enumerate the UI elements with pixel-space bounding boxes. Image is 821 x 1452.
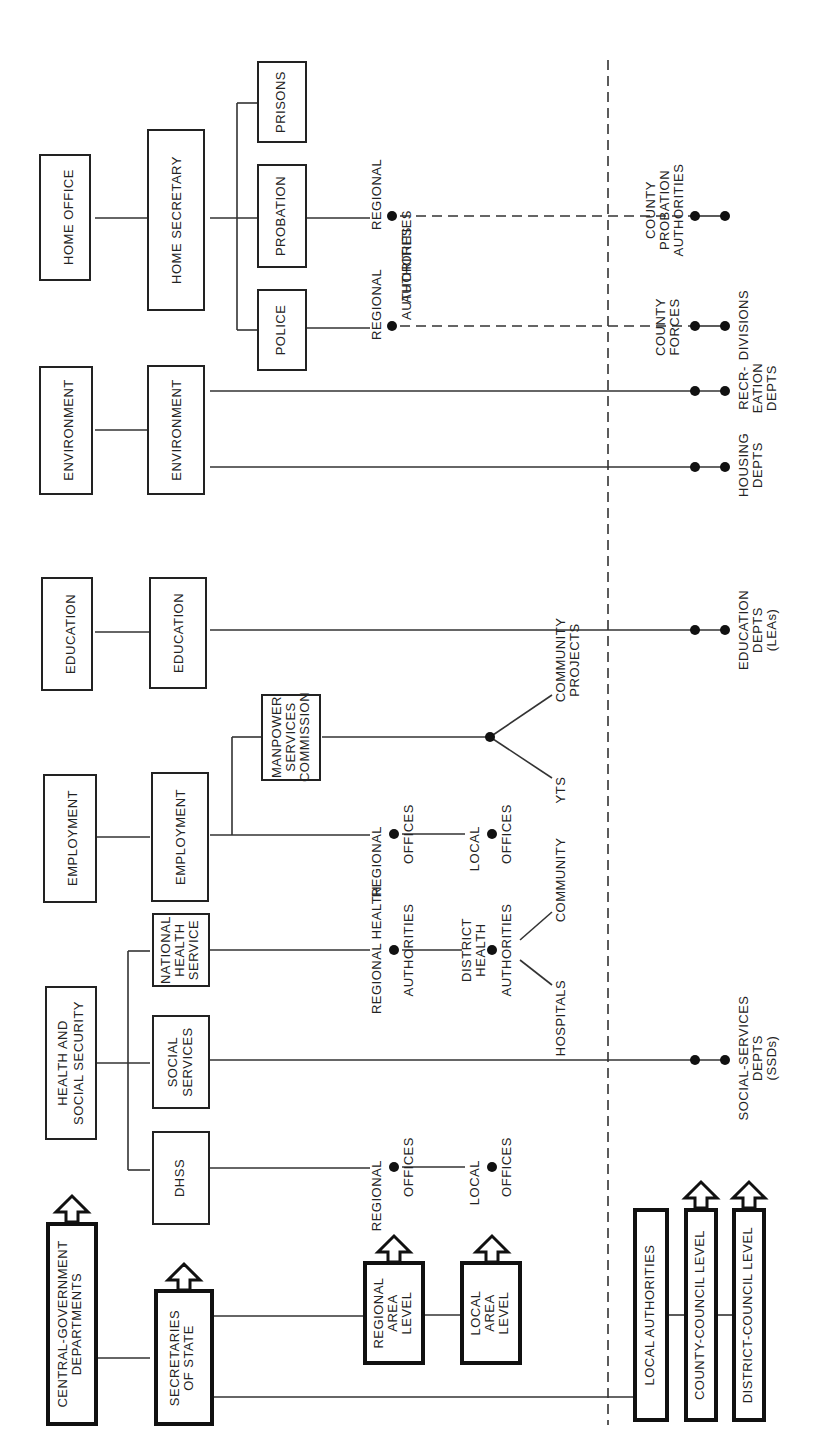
nhs-label-3: SERVICE: [186, 920, 201, 980]
legend-regional-label-2: AREA: [385, 1294, 400, 1331]
nhs-regional-label-1: REGIONAL HEALTH: [369, 886, 384, 1014]
employment-secretary-label: EMPLOYMENT: [173, 789, 188, 885]
social-services-label-1: SOCIAL: [165, 1037, 180, 1088]
legend-central-label-1: CENTRAL-GOVERNMENT: [55, 1240, 70, 1407]
social-services-label-2: SERVICES: [180, 1027, 195, 1097]
home-office-label: HOME OFFICE: [61, 169, 76, 265]
yts-label: YTS: [553, 777, 568, 804]
education-dept-label: EDUCATION: [63, 594, 78, 674]
environment-secretary-label: ENVIRONMENT: [169, 379, 184, 481]
education-depts-label-3: (LEAs): [764, 609, 779, 652]
legend-local-label-2: AREA: [482, 1294, 497, 1331]
legend-central-label-2: DEPARTMENTS: [69, 1273, 84, 1376]
dhss-regional-label-2: OFFICES: [401, 1137, 416, 1197]
legend-county-council-label: COUNTY-COUNCIL LEVEL: [692, 1230, 707, 1400]
divisions-label: DIVISIONS: [736, 290, 751, 360]
health-label-2: SOCIAL SECURITY: [71, 1001, 86, 1125]
police-label: POLICE: [273, 305, 288, 356]
housing-label-2: DEPTS: [750, 442, 765, 488]
health-label-1: HEALTH AND: [55, 1020, 70, 1106]
dhss-regional-label-1: REGIONAL: [369, 1160, 384, 1231]
county-probation-label-3: AUTHORITIES: [671, 164, 686, 257]
ssd-label-2: DEPTS: [750, 1035, 765, 1081]
probation-regional-label-1: REGIONAL: [369, 159, 384, 230]
legend-secretaries-label-1: SECRETARIES: [167, 1310, 182, 1406]
legend-district-council-label: DISTRICT-COUNCIL LEVEL: [740, 1227, 755, 1404]
home-secretary-label: HOME SECRETARY: [169, 156, 184, 284]
recreation-label-3: DEPTS: [764, 365, 779, 411]
employment-local-label-1: LOCAL: [467, 826, 482, 871]
nhs-district-label-2: HEALTH: [473, 923, 488, 976]
legend-regional-label-3: LEVEL: [399, 1292, 414, 1335]
nhs-community-label: COMMUNITY: [553, 838, 568, 923]
msc-label-1: MANPOWER: [269, 696, 284, 778]
msc-label-2: SERVICES: [283, 702, 298, 772]
nhs-district-label-1: DISTRICT: [459, 918, 474, 982]
msc-label-3: COMMISSION: [297, 692, 312, 782]
employment-regional-label-2: OFFICES: [401, 804, 416, 864]
police-regional-label-2: AUTHORITIES: [399, 227, 414, 320]
ssd-label-3: (SSDs): [764, 1036, 779, 1081]
ssd-label-1: SOCIAL-SERVICES: [736, 995, 751, 1120]
legend-secretaries-label-2: OF STATE: [181, 1325, 196, 1391]
housing-label-1: HOUSING: [736, 433, 751, 497]
community-projects-label-2: PROJECTS: [567, 623, 582, 696]
education-depts-label-1: EDUCATION: [736, 590, 751, 670]
employment-dept-label: EMPLOYMENT: [65, 790, 80, 886]
nhs-regional-label-2: AUTHORITIES: [401, 904, 416, 997]
education-secretary-label: EDUCATION: [171, 593, 186, 673]
recreation-label-2: EATION: [750, 363, 765, 413]
police-regional-label-1: REGIONAL: [369, 269, 384, 340]
county-probation-label-1: COUNTY: [643, 181, 658, 239]
county-forces-label-1: COUNTY: [653, 298, 668, 356]
nhs-label-2: HEALTH: [172, 923, 187, 976]
community-projects-label-1: COMMUNITY: [553, 618, 568, 703]
nhs-label-1: NATIONAL: [158, 916, 173, 984]
education-depts-label-2: DEPTS: [750, 607, 765, 653]
recreation-label-1: RECR-: [736, 366, 751, 410]
legend-local-authorities-label: LOCAL AUTHORITIES: [642, 1245, 657, 1386]
dhss-local-label-2: OFFICES: [499, 1137, 514, 1197]
employment-local-label-2: OFFICES: [499, 804, 514, 864]
county-probation-label-2: PROBATION: [657, 170, 672, 250]
probation-label: PROBATION: [273, 176, 288, 256]
environment-dept-label: ENVIRONMENT: [61, 379, 76, 481]
prisons-label: PRISONS: [273, 71, 288, 133]
legend-regional-label-1: REGIONAL: [371, 1277, 386, 1348]
dhss-label: DHSS: [172, 1159, 187, 1197]
legend-local-label-3: LEVEL: [496, 1292, 511, 1335]
nhs-district-label-3: AUTHORITIES: [499, 904, 514, 997]
organisation-chart: HOME OFFICE ENVIRONMENT EDUCATION EMPLOY…: [0, 0, 821, 1452]
county-forces-label-2: FORCES: [667, 298, 682, 355]
hospitals-label: HOSPITALS: [553, 980, 568, 1057]
dhss-local-label-1: LOCAL: [467, 1160, 482, 1205]
legend-local-label-1: LOCAL: [468, 1290, 483, 1335]
